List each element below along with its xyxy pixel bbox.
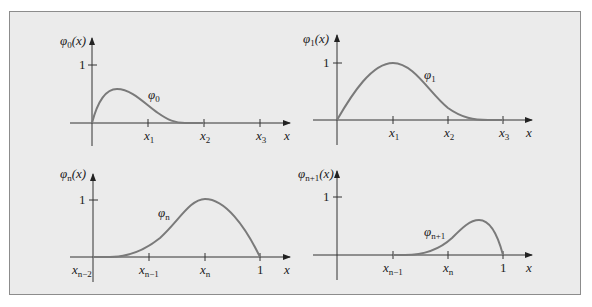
x-tick-label: 1 [257,262,264,277]
y-tick-label: 1 [79,192,86,207]
x-tick-label: 1 [500,260,507,275]
curve-phin [93,199,260,257]
x-tick-label: x2 [443,125,454,142]
panel-phi0: φ0(x) 1 φ0 x1 x2 x3 x [60,33,290,146]
y-tick-label: 1 [323,55,330,70]
x-tick-label: xn−1 [382,260,403,277]
curve-label: φ1 [424,67,436,84]
x-axis-label: x [283,262,290,277]
panel-phin1: φn+1(x) 1 φn+1 xn−1 xn 1 x [298,166,532,280]
panel-phi1: φ1(x) 1 φ1 x1 x2 x3 x [303,31,532,145]
curve-phi1 [337,63,503,120]
curve-label: φn [158,205,170,222]
curve-phin1 [393,220,503,255]
x-tick-label: x3 [255,128,267,145]
x-tick-label: x2 [199,128,210,145]
y-tick-label: 1 [79,57,86,72]
y-axis-label: φ0(x) [60,33,86,50]
y-axis-label: φn+1(x) [298,166,334,183]
curve-label: φn+1 [424,224,445,241]
x-axis-label: x [525,260,532,275]
panel-phin: φn(x) 1 φn xn−2 xn−1 xn 1 x [60,166,290,282]
x-tick-label: x1 [388,125,399,142]
x-tick-label: xn [199,262,211,279]
basis-functions-figure: φ0(x) 1 φ0 x1 x2 x3 x φ1(x) 1 φ1 x1 x2 x… [0,0,592,307]
y-axis-label: φ1(x) [303,31,329,48]
x-axis-label: x [525,125,532,140]
x-tick-label: xn [442,260,454,277]
x-axis-label: x [283,128,290,143]
y-tick-label: 1 [323,189,330,204]
curve-label: φ0 [148,87,160,104]
x-tick-label: xn−2 [71,262,92,279]
x-tick-label: x1 [143,128,154,145]
y-axis-label: φn(x) [60,166,86,183]
x-tick-label: xn−1 [138,262,159,279]
x-tick-label: x3 [498,125,510,142]
